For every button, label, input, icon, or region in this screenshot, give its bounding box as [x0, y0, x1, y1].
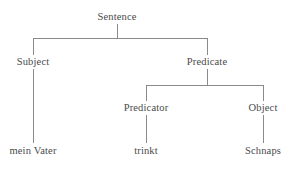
node-sentence: Sentence: [97, 12, 136, 23]
node-mein-vater: mein Vater: [9, 146, 56, 157]
node-subject: Subject: [17, 57, 50, 68]
syntax-tree-diagram: Sentence Subject Predicate Predicator Ob…: [0, 0, 288, 170]
node-object: Object: [249, 103, 278, 114]
node-predicator: Predicator: [124, 103, 169, 114]
node-schnaps: Schnaps: [245, 146, 281, 157]
node-trinkt: trinkt: [134, 146, 158, 157]
node-predicate: Predicate: [187, 57, 227, 68]
